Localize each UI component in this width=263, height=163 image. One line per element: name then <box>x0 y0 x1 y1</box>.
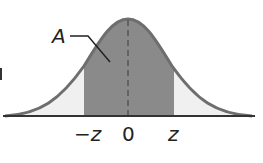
shaded-area-region <box>84 19 174 116</box>
neg-z-label: −z <box>74 122 102 146</box>
area-label: A <box>50 24 66 48</box>
zero-label: 0 <box>122 122 135 146</box>
normal-curve-diagram: A −z 0 z <box>0 0 263 163</box>
pos-z-label: z <box>167 122 179 146</box>
